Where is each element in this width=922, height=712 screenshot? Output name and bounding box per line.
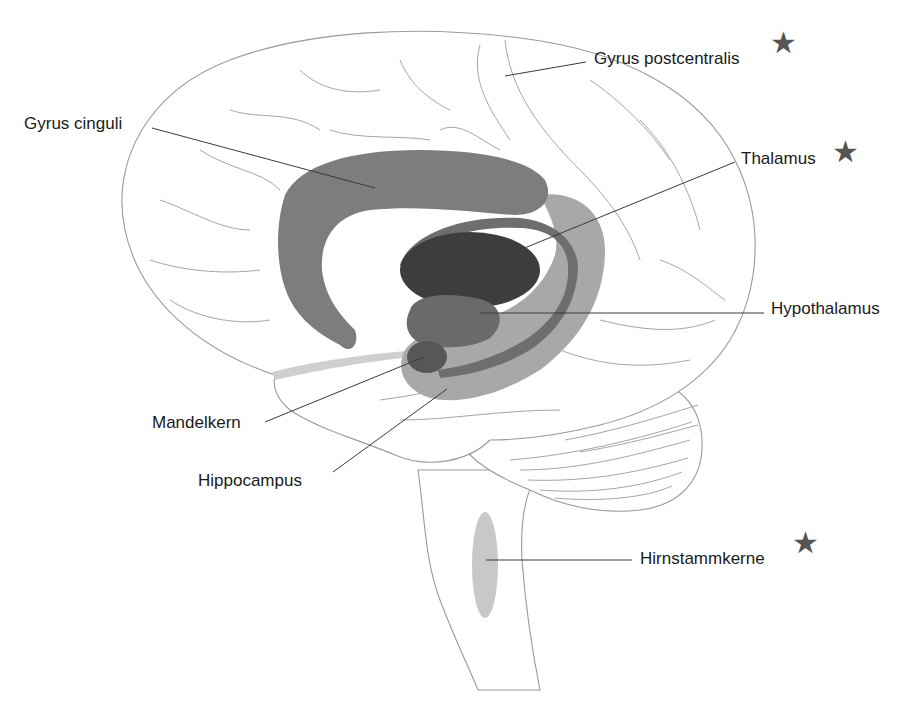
- label-hypothalamus: Hypothalamus: [771, 300, 880, 317]
- mandelkern-region: [407, 341, 447, 373]
- thalamus-region: [400, 232, 540, 308]
- label-gyrus-postcentralis: Gyrus postcentralis: [594, 50, 740, 67]
- label-hippocampus: Hippocampus: [198, 472, 302, 489]
- label-thalamus: Thalamus: [741, 150, 816, 167]
- brain-diagram: Gyrus postcentralis Gyrus cinguli Thalam…: [0, 0, 922, 712]
- star-icon: ★: [832, 137, 859, 167]
- hirnstammkerne-region: [472, 512, 498, 618]
- star-icon: ★: [770, 28, 797, 58]
- star-icon: ★: [792, 528, 819, 558]
- hypothalamus-region: [407, 295, 500, 347]
- label-hirnstammkerne: Hirnstammkerne: [640, 550, 765, 567]
- label-mandelkern: Mandelkern: [152, 414, 241, 431]
- label-gyrus-cinguli: Gyrus cinguli: [24, 115, 122, 132]
- brain-illustration: [0, 0, 922, 712]
